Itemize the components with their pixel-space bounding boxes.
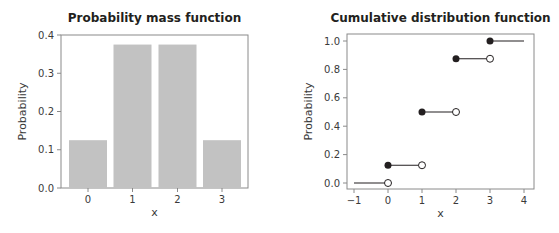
cdf-closed-point bbox=[453, 55, 460, 62]
cdf-ytick: 0.6 bbox=[324, 92, 340, 103]
cdf-ytick: 1.0 bbox=[324, 36, 340, 47]
cdf-ytick: 0.2 bbox=[324, 149, 340, 160]
pmf-ytick: 0.1 bbox=[38, 144, 54, 155]
pmf-bar bbox=[159, 45, 197, 188]
cdf-xtick: 0 bbox=[385, 195, 391, 206]
pmf-xtick: 1 bbox=[129, 194, 135, 205]
pmf-bar bbox=[203, 140, 241, 188]
cdf-closed-point bbox=[419, 109, 426, 116]
charts-figure: Probability mass function0.00.10.20.30.4… bbox=[0, 0, 559, 233]
pmf-bar bbox=[114, 45, 152, 188]
cdf-xtick: 4 bbox=[521, 195, 527, 206]
cdf-ytick: 0.8 bbox=[324, 64, 340, 75]
cdf-open-point bbox=[419, 162, 426, 169]
cdf-xtick: 2 bbox=[453, 195, 459, 206]
pmf-bar bbox=[69, 140, 107, 188]
pmf-xtick: 0 bbox=[85, 194, 91, 205]
cdf-ytick: 0.0 bbox=[324, 178, 340, 189]
cdf-open-point bbox=[487, 55, 494, 62]
cdf-closed-point bbox=[385, 162, 392, 169]
cdf-xlabel: x bbox=[437, 207, 444, 220]
cdf-chart: Cumulative distribution function0.00.20.… bbox=[302, 11, 551, 220]
pmf-ytick: 0.0 bbox=[38, 183, 54, 194]
cdf-xtick: −1 bbox=[347, 195, 362, 206]
pmf-chart: Probability mass function0.00.10.20.30.4… bbox=[16, 11, 248, 219]
pmf-ytick: 0.3 bbox=[38, 68, 54, 79]
cdf-open-point bbox=[453, 109, 460, 116]
cdf-open-point bbox=[385, 180, 392, 187]
pmf-ylabel: Probability bbox=[16, 82, 29, 141]
pmf-title: Probability mass function bbox=[68, 11, 241, 25]
pmf-xlabel: x bbox=[151, 206, 158, 219]
pmf-ytick: 0.2 bbox=[38, 106, 54, 117]
pmf-xtick: 2 bbox=[174, 194, 180, 205]
cdf-xtick: 1 bbox=[419, 195, 425, 206]
cdf-closed-point bbox=[487, 38, 494, 45]
pmf-ytick: 0.4 bbox=[38, 30, 54, 41]
pmf-xtick: 3 bbox=[219, 194, 225, 205]
cdf-ylabel: Probability bbox=[302, 82, 315, 141]
cdf-title: Cumulative distribution function bbox=[330, 11, 550, 25]
cdf-ytick: 0.4 bbox=[324, 121, 340, 132]
cdf-xtick: 3 bbox=[487, 195, 493, 206]
